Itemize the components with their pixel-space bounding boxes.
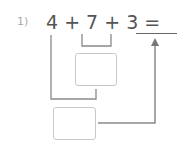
arrow-up-icon (151, 38, 159, 46)
partial-sum-box[interactable] (75, 53, 117, 86)
total-sum-box[interactable] (53, 107, 96, 140)
